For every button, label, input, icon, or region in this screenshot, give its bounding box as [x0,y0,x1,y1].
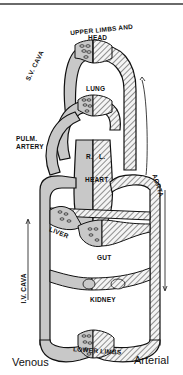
kidney-circuit [50,268,150,290]
label-kidney: KIDNEY [90,296,116,303]
arrow-up-right [142,80,147,175]
legend-arterial: Arterial [134,354,169,366]
label-iv-cava: I.V. CAVA [20,273,27,303]
label-right: R. [86,153,93,160]
label-lung: LUNG [86,85,105,92]
label-heart: HEART [85,176,108,183]
label-left: L. [99,153,105,160]
aorta [110,175,160,345]
label-artery: ARTERY [16,143,44,150]
label-gut: GUT [97,254,111,261]
liver-gut-circuit [50,206,150,246]
label-head: HEAD [88,34,107,41]
vena-cava [40,176,76,345]
legend-venous: Venous [12,356,49,368]
label-pulm: PULM. [16,135,37,142]
